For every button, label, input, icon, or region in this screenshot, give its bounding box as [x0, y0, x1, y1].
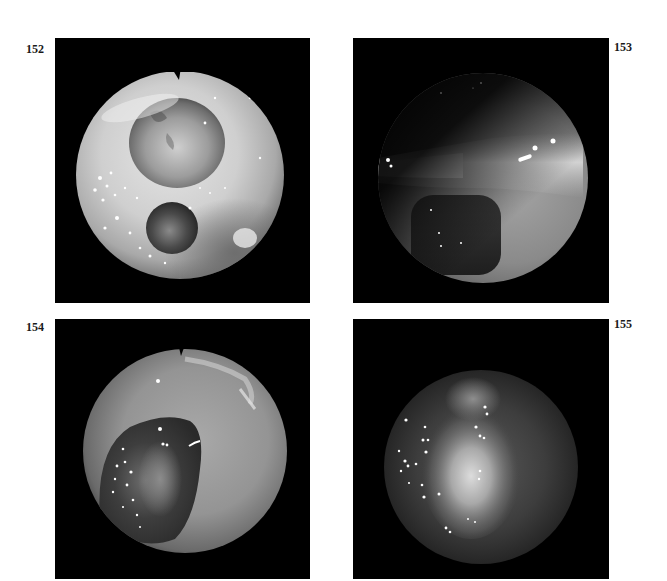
scope-view-152: [55, 38, 310, 303]
endoscopic-image-153: [353, 38, 609, 303]
endoscopic-image-155: [353, 319, 609, 579]
scope-view-155: [353, 319, 609, 579]
endoscopic-image-154: [55, 319, 310, 579]
scope-view-153: [353, 38, 609, 303]
scope-view-154: [55, 319, 310, 579]
endoscopic-image-152: [55, 38, 310, 303]
figure-number-153: 153: [614, 41, 632, 53]
figure-number-155: 155: [614, 318, 632, 330]
figure-number-154: 154: [26, 321, 44, 333]
figure-number-152: 152: [26, 43, 44, 55]
